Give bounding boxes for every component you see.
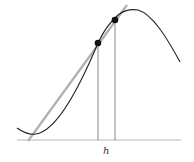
secant-diagram: h [0, 0, 194, 162]
diagram-svg [0, 0, 194, 162]
h-label: h [103, 145, 109, 156]
secant-line [28, 5, 127, 141]
point-a [95, 40, 102, 47]
point-b [112, 17, 119, 24]
